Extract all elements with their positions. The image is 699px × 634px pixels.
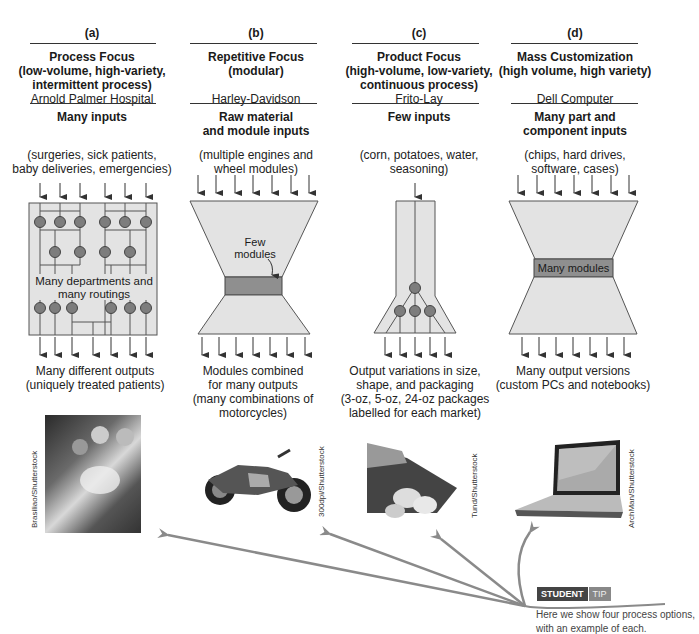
tip-badge-label: TIP <box>589 587 611 601</box>
photo-c-credit: Tund/Shutterstock <box>470 453 479 518</box>
column-c-funnel <box>374 201 456 333</box>
desc-line: (3-oz, 5-oz, 24-oz packages <box>320 392 510 406</box>
column-a-department-network <box>29 203 157 335</box>
tip-line: with an example of each. <box>536 622 699 634</box>
chips-bag-illustration <box>367 443 457 521</box>
column-d-output-arrows <box>522 337 624 355</box>
photo-surgeons <box>45 415 141 533</box>
photo-b-credit: 300dpi/Shutterstock <box>317 446 326 517</box>
column-b-diagram-label: Few modules <box>230 236 280 260</box>
photo-a-credit: Brasiliao/Shutterstock <box>30 451 39 528</box>
laptop-illustration <box>515 440 623 522</box>
label-line: Few <box>230 236 280 248</box>
photo-motorcycle <box>198 445 314 515</box>
surgeons-illustration <box>45 415 141 533</box>
student-badge-label: STUDENT <box>537 587 588 601</box>
photo-d-credit: ArchMan/Shutterstock <box>627 449 636 528</box>
column-b-hourglass <box>190 201 318 334</box>
desc-line: labelled for each market) <box>320 406 510 420</box>
photo-laptop <box>515 440 623 522</box>
column-b-output-arrows <box>202 337 305 355</box>
motorcycle-illustration <box>198 445 314 515</box>
student-tip-badge: STUDENT TIP <box>537 587 611 601</box>
column-a-input-arrows <box>40 183 146 197</box>
desc-line: (custom PCs and notebooks) <box>478 378 668 392</box>
label-line: Many departments and <box>33 275 155 288</box>
column-a-diagram-label: Many departments and many routings <box>33 275 155 301</box>
column-c-output-arrows <box>385 337 445 355</box>
label-line: many routings <box>33 288 155 301</box>
tip-line: Here we show four process options, <box>536 608 699 622</box>
desc-line: Many output versions <box>478 364 668 378</box>
column-d-diagram-label: Many modules <box>534 262 613 274</box>
student-tip-text: Here we show four process options, with … <box>536 608 699 634</box>
column-d-outputs-desc: Many output versions (custom PCs and not… <box>478 364 668 392</box>
column-d-input-arrows <box>518 175 629 193</box>
column-b-input-arrows <box>198 175 309 193</box>
label-line: modules <box>230 248 280 260</box>
column-a-output-arrows <box>40 337 146 355</box>
photo-chips-bag <box>367 443 457 521</box>
